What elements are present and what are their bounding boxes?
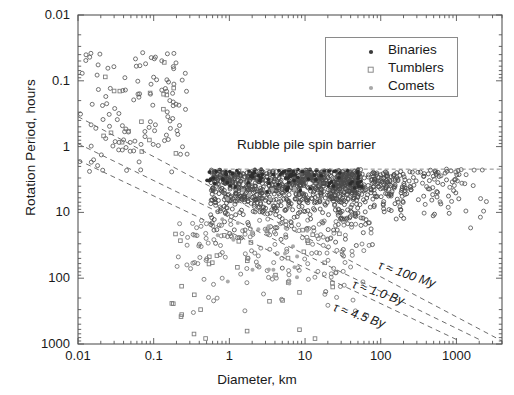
x-axis-label: Diameter, km (0, 372, 514, 387)
y-tick-label-2: 1 (8, 139, 70, 154)
legend-label-tumblers: Tumblers (388, 60, 444, 75)
legend-label-binaries: Binaries (388, 42, 437, 57)
legend-item-binaries: Binaries (326, 42, 457, 60)
legend-item-tumblers: Tumblers (326, 60, 457, 78)
x-tick-label-4: 100 (346, 348, 416, 363)
y-tick-label-1: 0.1 (8, 73, 70, 88)
x-tick-label-2: 1 (194, 348, 264, 363)
y-tick-label-4: 100 (8, 270, 70, 285)
x-tick-label-3: 10 (270, 348, 340, 363)
open-square-icon (367, 66, 377, 76)
legend: Binaries Tumblers Comets (325, 37, 458, 97)
legend-item-comets: Comets (326, 78, 457, 96)
x-tick-label-5: 1000 (421, 348, 491, 363)
y-tick-label-3: 10 (8, 204, 70, 219)
legend-label-comets: Comets (388, 78, 435, 93)
x-tick-label-0: 0.01 (43, 348, 113, 363)
gray-dot-icon (367, 84, 377, 94)
rotation-period-vs-diameter-figure: Rotation Period, hours Diameter, km 0.01… (0, 0, 514, 395)
y-tick-label-0: 0.01 (8, 7, 70, 22)
x-tick-label-1: 0.1 (119, 348, 189, 363)
filled-dot-icon (367, 48, 377, 58)
spin-barrier-label: Rubble pile spin barrier (237, 137, 376, 152)
